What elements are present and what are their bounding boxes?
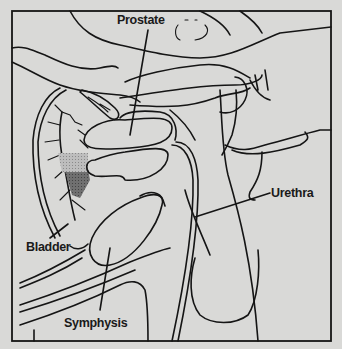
urethra-leader [195,193,270,217]
rectum-outline [12,11,331,107]
bladder-leader [70,244,88,249]
symphysis-leader [100,248,110,310]
label-bladder: Bladder [26,240,71,254]
label-prostate: Prostate [117,13,165,27]
label-urethra: Urethra [271,186,315,200]
urethra [172,142,198,341]
external-genitalia [170,70,331,341]
anatomy-diagram: Prostate Urethra Bladder Symphysis [0,0,342,349]
prostate [84,111,176,180]
label-symphysis: Symphysis [64,316,128,330]
symphysis [90,193,165,266]
